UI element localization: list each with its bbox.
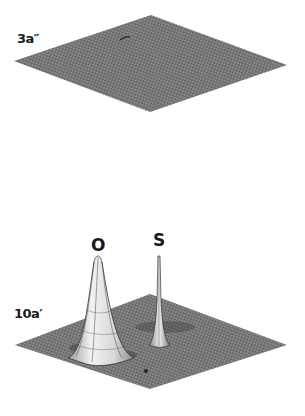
peak-label-s: S: [153, 230, 165, 250]
panel-label-3a-double-prime: 3a″: [17, 31, 39, 46]
surface-10a-prime: [15, 256, 287, 389]
panel-label-10a-prime: 10a′: [14, 306, 42, 321]
surface-plots: [0, 0, 305, 416]
peak-label-o: O: [91, 235, 105, 255]
surface-3a-double-prime: [14, 15, 287, 112]
